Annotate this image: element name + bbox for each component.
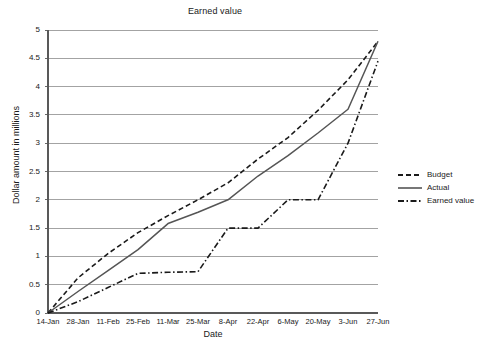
legend-item-earned-value[interactable]: Earned value (398, 194, 474, 207)
y-tick-label: 1 (10, 252, 40, 260)
chart-title: Earned value (0, 6, 430, 16)
x-axis-title: Date (48, 329, 378, 339)
x-tick-label: 11-Feb (96, 318, 119, 326)
legend-item-actual[interactable]: Actual (398, 181, 474, 194)
x-tick-label: 11-Mar (156, 318, 179, 326)
y-tick-label: 4 (10, 83, 40, 91)
series-line-budget (48, 41, 378, 313)
y-tick-label: 2.5 (10, 168, 40, 176)
y-tick-label: 2 (10, 196, 40, 204)
y-tick-label: 0 (10, 309, 40, 317)
gridlines (48, 30, 378, 313)
y-tick-label: 1.5 (10, 224, 40, 232)
earned-value-chart: Earned value Dollar amount in millions 0… (0, 0, 489, 358)
x-tick-label: 28-Jan (67, 318, 90, 326)
chart-legend: BudgetActualEarned value (398, 168, 474, 207)
y-tick-label: 3.5 (10, 111, 40, 119)
x-tick-label: 6-May (278, 318, 299, 326)
x-tick-label: 22-Apr (247, 318, 270, 326)
y-tick-label: 0.5 (10, 281, 40, 289)
x-tick-label: 25-Mar (186, 318, 210, 326)
x-tick-label: 25-Feb (126, 318, 150, 326)
series-line-actual (48, 41, 378, 313)
y-tick-label: 3 (10, 139, 40, 147)
x-tick-label: 3-Jun (339, 318, 358, 326)
legend-swatch-dash-dot (398, 197, 422, 205)
y-tick-label: 5 (10, 26, 40, 34)
x-tick-label: 14-Jan (37, 318, 60, 326)
legend-label: Budget (427, 170, 452, 179)
data-series-layer (48, 41, 378, 313)
legend-swatch-dashed (398, 171, 422, 179)
x-tick-label: 27-Jun (367, 318, 390, 326)
x-tick-label: 20-May (305, 318, 330, 326)
legend-item-budget[interactable]: Budget (398, 168, 474, 181)
legend-label: Actual (427, 183, 449, 192)
legend-swatch-solid (398, 184, 422, 192)
x-tick-label: 8-Apr (219, 318, 237, 326)
y-tick-label: 4.5 (10, 54, 40, 62)
legend-label: Earned value (427, 196, 474, 205)
